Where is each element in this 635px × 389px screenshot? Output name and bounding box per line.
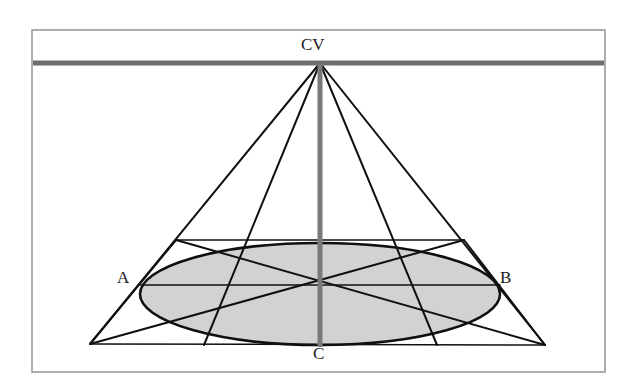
label-a: A (117, 269, 129, 286)
label-c: C (313, 345, 324, 362)
label-cv: CV (301, 36, 325, 53)
label-b: B (500, 269, 511, 286)
figure-root: CV A B C (0, 0, 635, 389)
perspective-cone-diagram (0, 0, 635, 389)
